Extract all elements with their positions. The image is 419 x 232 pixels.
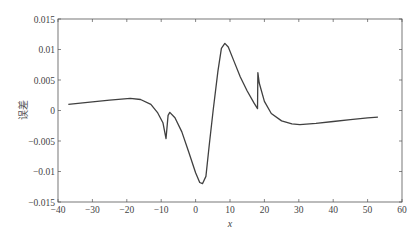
- x-tick-label: 0: [193, 205, 198, 215]
- x-tick-label: −10: [154, 205, 169, 215]
- y-tick-label: 0.01: [38, 45, 55, 55]
- x-tick-label: 30: [294, 205, 304, 215]
- plot-border: [58, 19, 402, 202]
- series-layer: [68, 43, 378, 183]
- x-tick-label: 20: [260, 205, 270, 215]
- y-axis-ticks: −0.015−0.01−0.00500.0050.010.015: [28, 15, 402, 208]
- x-tick-label: 60: [397, 205, 407, 215]
- y-tick-label: 0.005: [34, 76, 56, 86]
- x-axis-label: x: [227, 218, 233, 229]
- y-tick-label: −0.005: [28, 137, 55, 147]
- plot-frame: [58, 19, 402, 202]
- y-tick-label: −0.01: [33, 167, 55, 177]
- x-tick-label: −20: [119, 205, 134, 215]
- x-tick-label: −30: [85, 205, 100, 215]
- y-tick-label: 0: [50, 106, 55, 116]
- y-tick-label: −0.015: [28, 198, 55, 208]
- error-curve: [68, 43, 378, 183]
- x-tick-label: 50: [363, 205, 373, 215]
- x-tick-label: 10: [225, 205, 235, 215]
- y-tick-label: 0.015: [34, 15, 56, 25]
- x-tick-label: 40: [328, 205, 338, 215]
- y-axis-label: 误差: [17, 100, 29, 120]
- error-line-chart: −40−30−20−100102030405060 −0.015−0.01−0.…: [0, 0, 419, 232]
